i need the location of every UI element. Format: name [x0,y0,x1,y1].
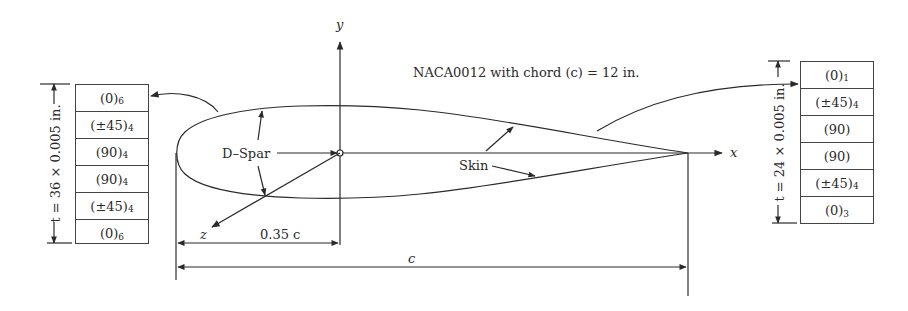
dspar-thickness-label: t = 36 × 0.005 in. [48,94,63,234]
ply-row: (0)6 [76,220,148,247]
skin-thickness-label: t = 24 × 0.005 in. [772,73,787,213]
ply-row: (90)4 [76,166,148,193]
ply-row: (90)4 [76,139,148,166]
ply-row: (90) [801,143,873,170]
ply-row: (0)3 [801,197,873,224]
ply-row: (±45)4 [801,89,873,116]
ply-row: (0)1 [801,62,873,89]
ply-row: (±45)4 [76,193,148,220]
ply-row: (0)6 [76,85,148,112]
ply-row: (±45)4 [76,112,148,139]
z-axis [212,153,340,227]
skin-layup-table: (0)1 (±45)4 (90) (90) (±45)4 (0)3 [800,61,874,224]
z-axis-label: z [200,228,207,241]
dspar-layup-table: (0)6 (±45)4 (90)4 (90)4 (±45)4 (0)6 [75,84,149,244]
airfoil-title: NACA0012 with chord (c) = 12 in. [413,66,639,79]
dspar-label: D–Spar [222,147,270,160]
spar-location-dimension: 0.35 c [260,228,300,241]
ply-row: (±45)4 [801,170,873,197]
chord-dimension: c [408,252,415,265]
x-axis-label: x [730,146,737,159]
skin-label: Skin [459,159,488,172]
y-axis-label: y [336,18,343,31]
ply-row: (90) [801,116,873,143]
